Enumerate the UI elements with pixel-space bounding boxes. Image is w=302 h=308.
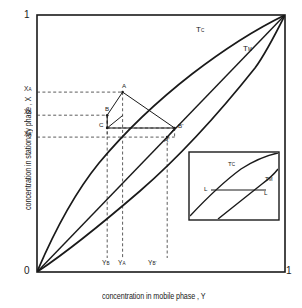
equilibrium-diagram-figure: concentration in stationary phase , X co… (0, 0, 302, 308)
y-axis-title: concentration in stationary phase , X (17, 36, 35, 256)
x-value-label-0: YB (102, 259, 109, 266)
x-value-label-0-sub: B (106, 261, 109, 266)
inset-label-tie-right: L (264, 189, 267, 196)
inset-label-tc-sub: C (232, 162, 235, 167)
y-value-label-0: XA (24, 85, 31, 92)
inset-label-tm-sub: M (269, 177, 273, 182)
y-value-label-0-sub: A (28, 87, 31, 92)
y-value-label-1-sub: B (28, 110, 31, 115)
curve-label-tm-sub: M (248, 47, 252, 52)
x-tick-right: 1 (286, 265, 292, 276)
y-value-label-2: XA' (24, 130, 32, 137)
curve-label-tc-sub: C (201, 28, 204, 33)
x-axis-title-text: concentration in mobile phase , Y (102, 292, 206, 301)
point-label-a-prime: A' (164, 136, 169, 143)
origin-tick: 0 (24, 265, 30, 276)
x-axis-title: concentration in mobile phase , Y (37, 285, 285, 303)
y-tick-top: 1 (24, 9, 30, 20)
x-value-label-1-sub: A (122, 261, 125, 266)
inset-label-tc: TC (228, 160, 235, 167)
point-label-b: B (105, 105, 109, 112)
x-value-label-2: YB' (148, 259, 156, 266)
inset-label-tie-left: L (204, 185, 207, 192)
curve-label-tm: TM (243, 44, 252, 53)
y-value-label-1: XB (24, 108, 31, 115)
y-value-label-2-sub: A' (28, 132, 32, 137)
point-label-a: A (122, 82, 126, 89)
point-label-c: C (99, 121, 103, 128)
x-value-label-2-sub: B' (152, 261, 156, 266)
inset-label-tm: TM (265, 175, 273, 182)
curve-label-tc: TC (196, 25, 204, 34)
point-label-b-prime: B' (178, 122, 183, 129)
x-value-label-1: YA (118, 259, 125, 266)
